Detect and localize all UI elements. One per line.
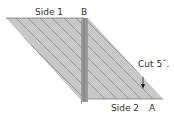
point-a-label: A [149,104,155,113]
side1-label: Side 1 [35,8,63,17]
cut-label: Cut 5˝. [138,60,169,69]
side2-label: Side 2 [111,104,139,113]
seam-strip [82,18,88,102]
point-b-label: B [81,8,87,17]
